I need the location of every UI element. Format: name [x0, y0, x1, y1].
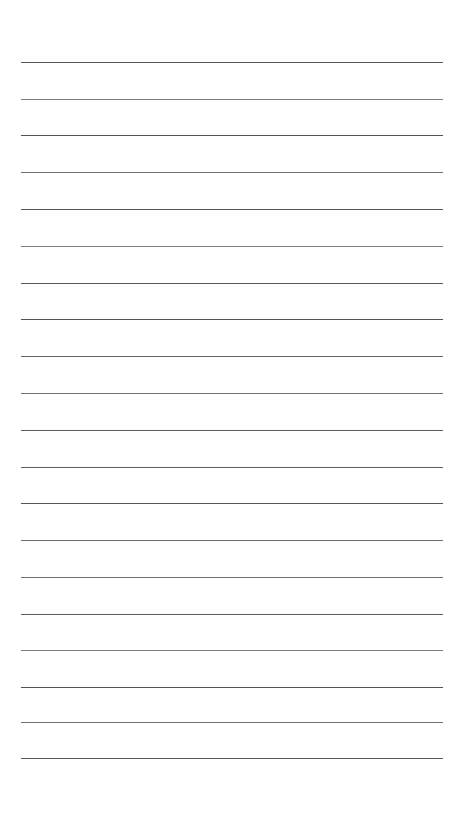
- rule-line: [21, 614, 443, 615]
- rule-line: [21, 319, 443, 320]
- rule-line: [21, 540, 443, 541]
- rule-line: [21, 135, 443, 136]
- rule-line: [21, 577, 443, 578]
- rule-line: [21, 467, 443, 468]
- rule-line: [21, 758, 443, 759]
- rule-line: [21, 99, 443, 100]
- rule-line: [21, 283, 443, 284]
- rule-line: [21, 503, 443, 504]
- rule-line: [21, 650, 443, 651]
- rule-line: [21, 430, 443, 431]
- rule-line: [21, 356, 443, 357]
- rule-line: [21, 246, 443, 247]
- rule-line: [21, 62, 443, 63]
- rule-line: [21, 722, 443, 723]
- rule-line: [21, 393, 443, 394]
- rule-line: [21, 209, 443, 210]
- rule-line: [21, 172, 443, 173]
- rule-line: [21, 687, 443, 688]
- ruled-paper-page: [0, 0, 459, 817]
